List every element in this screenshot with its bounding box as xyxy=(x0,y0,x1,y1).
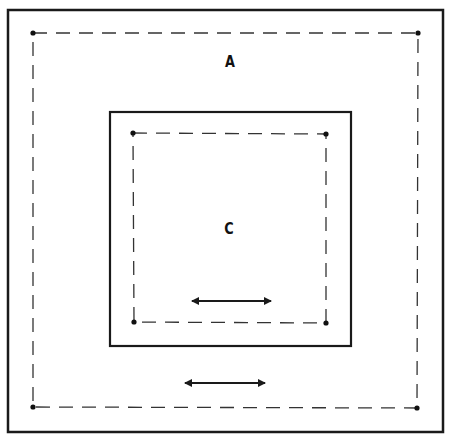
region-a-label: A xyxy=(225,52,235,71)
double-arrows xyxy=(185,301,271,383)
corner-dot xyxy=(30,404,35,409)
corner-dot xyxy=(30,30,35,35)
corner-dot xyxy=(131,319,136,324)
region-c-label: C xyxy=(224,219,233,238)
corner-dot xyxy=(415,30,420,35)
corner-dot xyxy=(323,320,328,325)
corner-dot xyxy=(323,131,328,136)
corner-dot xyxy=(414,405,419,410)
corner-dot xyxy=(130,130,135,135)
